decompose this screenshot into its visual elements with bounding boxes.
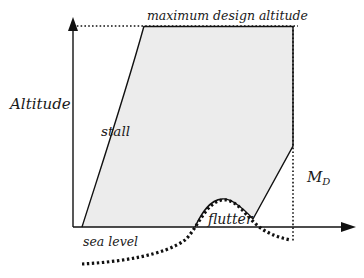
max-design-altitude-label: maximum design altitude [147,8,308,23]
sea-level-label: sea level [83,234,138,249]
md-label-subscript: D [321,176,330,187]
md-label: MD [306,168,330,187]
x-axis-arrow-icon [341,222,356,232]
y-axis-arrow-icon [68,17,78,31]
stall-label: stall [101,123,130,139]
flutter-label: flutter [207,211,254,227]
altitude-axis-label: Altitude [8,95,71,113]
flight-envelope-diagram: maximum design altitude Altitude stall M… [0,0,364,278]
md-label-main: M [306,168,323,186]
